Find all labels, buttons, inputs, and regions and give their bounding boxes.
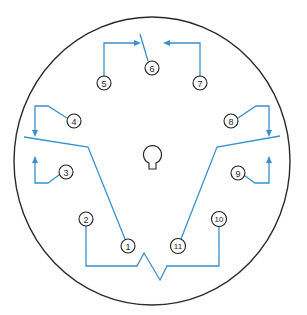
pin-6-label: 6: [149, 64, 154, 74]
pin-2-label: 2: [83, 215, 88, 225]
wire-pin4: [35, 106, 67, 133]
wire-pin9: [245, 160, 269, 183]
relay-pin-diagram: 1 2 3 4 5 6 7 8: [0, 0, 307, 315]
wire-pin7: [168, 43, 200, 76]
arrow-down-pin4: [32, 130, 38, 137]
arrow-to-pin6: [134, 40, 141, 46]
pin-2: 2: [79, 212, 93, 226]
pin-1-label: 1: [125, 242, 130, 252]
arrow-up-pin3: [32, 156, 38, 163]
pin-10-label: 10: [215, 215, 224, 224]
pin-8: 8: [224, 114, 238, 128]
coil-wire: [86, 226, 219, 280]
pin-1: 1: [121, 239, 135, 253]
pin-5: 5: [97, 76, 111, 90]
arrow-up-pin9: [266, 156, 272, 163]
wire-pin1-blade: [24, 137, 125, 239]
keyhole-key-icon: [144, 146, 162, 169]
pin-8-label: 8: [228, 117, 233, 127]
pin-11-label: 11: [174, 242, 183, 251]
pin-labels: 1 2 3 4 5 6 7 8: [59, 61, 245, 254]
pin-5-label: 5: [101, 79, 106, 89]
wire-pin3: [35, 160, 59, 183]
arrow-from-pin7: [163, 40, 170, 46]
socket-outline: [14, 17, 290, 305]
pin-6: 6: [145, 61, 159, 75]
pin-7: 7: [193, 76, 207, 90]
pin-9: 9: [231, 166, 245, 180]
pin-4: 4: [67, 114, 81, 128]
wire-pin11-blade: [181, 136, 280, 239]
pin-3-label: 3: [63, 168, 68, 178]
pin-7-label: 7: [197, 79, 202, 89]
arrow-down-pin8: [266, 130, 272, 137]
wire-pin6-blade: [140, 34, 148, 61]
wire-pin8: [238, 106, 269, 133]
pin-4-label: 4: [71, 117, 76, 127]
pin-11: 11: [171, 239, 186, 254]
pin-9-label: 9: [235, 169, 240, 179]
wire-pin5: [104, 43, 137, 76]
pin-3: 3: [59, 165, 73, 179]
pin-10: 10: [212, 212, 227, 227]
